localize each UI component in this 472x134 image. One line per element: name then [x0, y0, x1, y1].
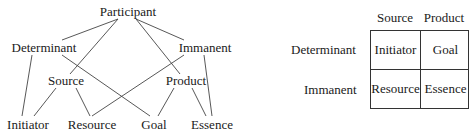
cell-goal: Goal [421, 31, 470, 69]
column-header-source: Source [377, 10, 413, 25]
column-header-product: Product [424, 10, 464, 25]
cell-essence: Essence [421, 70, 470, 108]
role-matrix: Source Product Determinant Immanent Init… [0, 0, 472, 134]
cell-resource: Resource [371, 70, 420, 108]
row-header-determinant: Determinant [291, 42, 356, 57]
row-header-immanent: Immanent [304, 82, 357, 97]
matrix-grid: Initiator Goal Resource Essence [370, 30, 469, 109]
cell-initiator: Initiator [371, 31, 420, 69]
